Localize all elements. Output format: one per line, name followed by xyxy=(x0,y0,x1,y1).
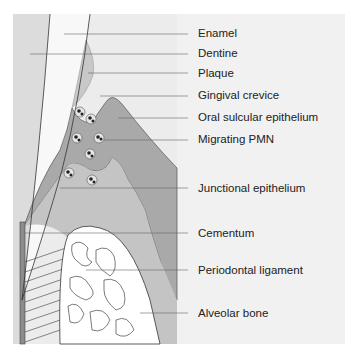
label-periodontal-ligament: Periodontal ligament xyxy=(198,264,303,277)
label-cementum: Cementum xyxy=(198,227,254,240)
label-oral-sulcular-epithelium: Oral sulcular epithelium xyxy=(198,111,318,124)
label-enamel: Enamel xyxy=(198,27,237,40)
label-gingival-crevice: Gingival crevice xyxy=(198,89,279,102)
label-plaque: Plaque xyxy=(198,67,234,80)
label-junctional-epithelium: Junctional epithelium xyxy=(198,182,305,195)
label-alveolar-bone: Alveolar bone xyxy=(198,307,268,320)
gingival-crevice-diagram xyxy=(0,0,353,352)
label-migrating-pmn: Migrating PMN xyxy=(198,133,274,146)
label-dentine: Dentine xyxy=(198,47,238,60)
